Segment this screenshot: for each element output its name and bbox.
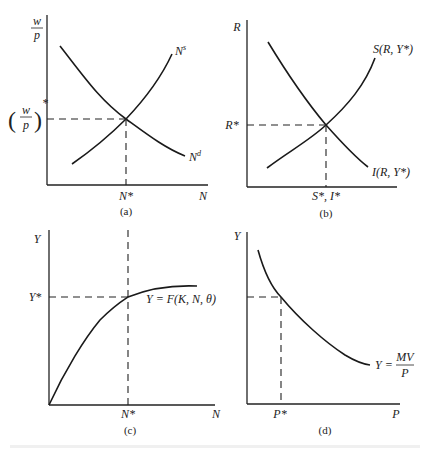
panel-a-x-axis-label: N [198, 189, 208, 203]
panel-a-labor-market: w p ( w p ) * Ns Nd N* N (a) [8, 14, 208, 218]
four-panel-macro-diagram: w p ( w p ) * Ns Nd N* N (a) R R* S(R, Y… [0, 0, 429, 450]
panel-b-saving-investment: R R* S(R, Y*) I(R, Y*) S*, I* (b) [224, 20, 413, 220]
panel-d-x-axis-label: P [391, 407, 400, 421]
panel-a-x-eq-label: N* [118, 189, 133, 203]
panel-c-x-eq-label: N* [120, 407, 135, 421]
saving-curve-label: S(R, Y*) [373, 42, 413, 56]
panel-c-y-eq-label: Y* [29, 290, 42, 304]
labor-demand-curve [60, 46, 185, 156]
panel-a-open-paren: ( [8, 107, 16, 133]
investment-curve-label: I(R, Y*) [371, 165, 410, 179]
panel-a-y-label-numerator: w [33, 14, 41, 28]
investment-curve [268, 42, 368, 167]
panel-d-quantity-theory: Y Y = MV P P* P (d) [234, 229, 416, 437]
quantity-theory-label-lhs: Y = [375, 358, 393, 372]
quantity-theory-label-denominator: P [400, 366, 409, 380]
panel-d-y-axis-label: Y [234, 229, 242, 243]
panel-b-caption: (b) [320, 207, 333, 220]
saving-curve [267, 58, 375, 168]
panel-b-y-axis-label: R [232, 20, 241, 34]
panel-c-production-function: Y Y* Y = F(K, N, θ) N* N (c) [29, 230, 221, 437]
panel-c-x-axis-label: N [211, 407, 221, 421]
quantity-theory-label-numerator: MV [395, 350, 415, 364]
panel-c-y-axis-label: Y [34, 232, 42, 246]
labor-demand-label: Nd [188, 149, 202, 164]
faint-figure-caption [10, 445, 420, 448]
quantity-theory-curve [258, 250, 370, 365]
panel-a-eq-label-numerator: w [22, 103, 30, 117]
labor-supply-label: Ns [174, 43, 186, 58]
panel-a-close-paren: ) [34, 107, 42, 133]
panel-b-y-eq-label: R* [224, 118, 238, 132]
panel-a-caption: (a) [120, 205, 133, 218]
production-function-label: Y = F(K, N, θ) [146, 292, 216, 306]
labor-supply-curve [72, 54, 172, 164]
panel-b-x-eq-label: S*, I* [312, 189, 340, 203]
panel-d-x-eq-label: P* [272, 407, 286, 421]
panel-a-eq-label-denominator: p [22, 118, 29, 132]
panel-a-eq-label-star: * [42, 96, 48, 110]
panel-c-caption: (c) [124, 424, 137, 437]
panel-d-caption: (d) [319, 424, 332, 437]
panel-a-y-label-denominator: p [33, 28, 40, 42]
